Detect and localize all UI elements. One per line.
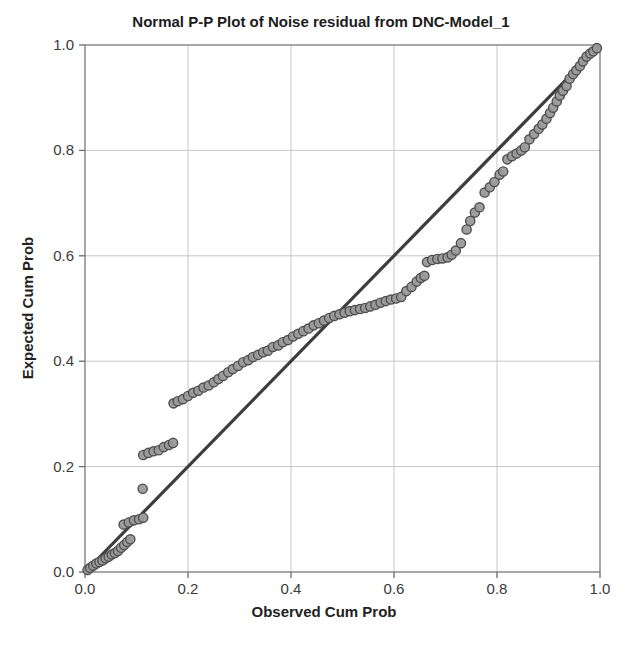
pp-plot-figure: Normal P-P Plot of Noise residual from D…	[0, 0, 642, 650]
y-tick-label: 0.0	[53, 563, 74, 580]
data-point	[126, 535, 135, 544]
x-tick-label: 0.4	[281, 580, 302, 597]
x-axis-label: Observed Cum Prob	[24, 603, 624, 620]
y-tick-label: 0.8	[53, 141, 74, 158]
x-tick-label: 0.2	[178, 580, 199, 597]
y-tick-label: 0.2	[53, 458, 74, 475]
y-tick-label: 1.0	[53, 36, 74, 53]
x-tick-label: 0.6	[384, 580, 405, 597]
data-point	[592, 44, 601, 53]
data-point	[456, 239, 465, 248]
data-point	[499, 167, 508, 176]
plot-canvas: 0.00.20.40.60.81.00.00.20.40.60.81.0	[0, 0, 642, 650]
data-point	[475, 203, 484, 212]
x-tick-label: 0.8	[487, 580, 508, 597]
data-point	[139, 513, 148, 522]
data-point	[466, 216, 475, 225]
x-tick-label: 0.0	[75, 580, 96, 597]
data-point	[168, 438, 177, 447]
y-tick-label: 0.4	[53, 352, 74, 369]
y-axis-label: Expected Cum Prob	[19, 237, 36, 380]
data-point	[420, 271, 429, 280]
y-tick-label: 0.6	[53, 247, 74, 264]
x-tick-label: 1.0	[590, 580, 611, 597]
data-point	[138, 484, 147, 493]
